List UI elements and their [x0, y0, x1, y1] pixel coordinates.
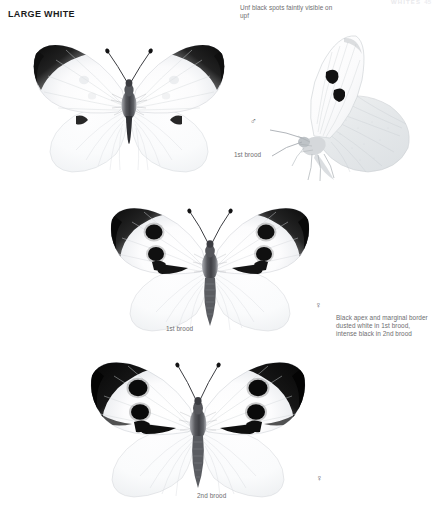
page-title: LARGE WHITE: [8, 9, 75, 19]
field-guide-page: WHITES 45 LARGE WHITE Unf black spots fa…: [0, 0, 433, 505]
annotation-black-apex: Black apex and marginal border dusted wh…: [336, 314, 432, 338]
specimen-female-upperside-2nd-brood: [70, 348, 326, 498]
annotation-unf-spots: Unf black spots faintly visible on upf: [240, 4, 335, 20]
specimen-male-underside-side-view: [268, 24, 430, 184]
running-head: WHITES: [391, 0, 421, 5]
sex-symbol-female-1st-brood: ♀: [315, 301, 322, 310]
brood-label-male-1st-brood: 1st brood: [234, 151, 261, 158]
sex-symbol-female-2nd-brood: ♀: [316, 474, 323, 483]
brood-label-female-1st-brood: 1st brood: [166, 325, 193, 332]
page-number: 45: [424, 0, 431, 5]
specimen-male-upperside-1st-brood: [14, 20, 244, 190]
specimen-female-upperside-1st-brood: [92, 192, 328, 332]
brood-label-female-2nd-brood: 2nd brood: [197, 492, 226, 499]
sex-symbol-male-1st-brood: ♂: [250, 117, 257, 126]
